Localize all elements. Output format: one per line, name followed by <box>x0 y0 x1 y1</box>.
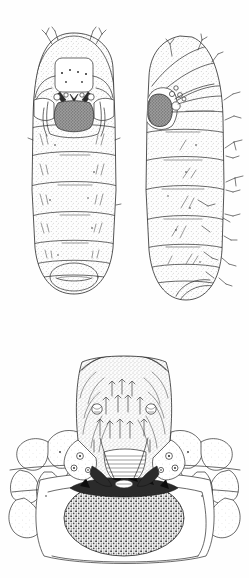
lobe-left-2 <box>17 439 48 471</box>
lateral-eye-spot <box>147 94 172 127</box>
lateral-papilla-1 <box>169 91 174 96</box>
dorsal-papilla-2 <box>64 93 68 97</box>
dorsal-sensory-papilla-right <box>88 94 94 100</box>
dorsal-papilla-3 <box>80 93 84 97</box>
lateral-papilla-3 <box>174 86 178 90</box>
lateral-papilla-4 <box>182 97 186 101</box>
dorsal-head-shield <box>55 58 93 92</box>
lobe-right-2 <box>201 439 232 471</box>
illustration-plate <box>0 0 249 578</box>
lateral-body-outline <box>146 36 224 300</box>
dorsal-pharyngeal-mask <box>54 101 94 132</box>
panel-dorsal-larva <box>28 27 121 294</box>
dorsal-sensory-papilla-left <box>54 94 60 100</box>
lateral-papilla-large <box>172 102 180 110</box>
plate-svg <box>0 0 249 578</box>
